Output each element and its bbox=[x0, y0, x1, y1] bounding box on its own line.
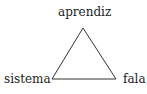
vertex-label-top: aprendiz bbox=[58, 6, 111, 18]
vertex-label-bottom-left: sistema bbox=[4, 73, 51, 85]
vertex-label-bottom-right: fala bbox=[123, 73, 146, 85]
